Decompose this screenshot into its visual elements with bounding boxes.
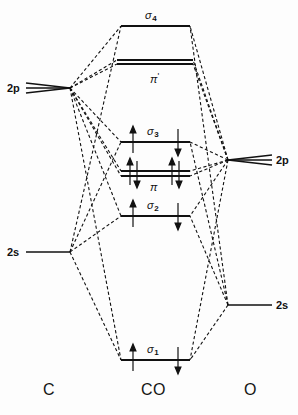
mo-label-sigma1: σ1 <box>147 344 159 357</box>
correlation-line-o2p-pistar-b <box>193 64 228 160</box>
ao-level-c-2p <box>26 83 70 93</box>
electron-arrow-down <box>134 161 140 188</box>
ao-label-c-2s: 2s <box>7 247 19 258</box>
atomic-orbital-levels <box>26 83 272 305</box>
electron-arrows <box>127 126 182 374</box>
correlation-line-o2p-sigma4 <box>190 26 228 160</box>
mo-label-sigma3: σ3 <box>147 126 159 139</box>
correlation-line-o2s-sigma3 <box>190 142 228 305</box>
correlation-line-c2p-pi-b <box>70 88 121 176</box>
column-label-oxygen: O <box>244 382 257 398</box>
mo-level-pi-star <box>117 60 193 64</box>
correlation-line-c2p-sigma4 <box>70 26 121 88</box>
mo-label-subscript: 1 <box>154 348 158 357</box>
correlation-line-c2s-sigma3 <box>70 142 121 252</box>
mo-level-pi <box>121 171 190 176</box>
ao-label-o-2p: 2p <box>276 155 288 166</box>
mo-diagram: 2p 2s 2p 2s σ4 πʹ σ3 π σ2 σ1 C CO O <box>0 0 298 415</box>
electron-arrow-up <box>130 126 136 153</box>
electron-arrow-down <box>176 161 182 188</box>
mo-label-symbol: σ <box>147 125 154 137</box>
correlation-line-c2p-sigma2 <box>70 88 121 216</box>
correlation-line-c2s-sigma1 <box>70 252 121 360</box>
ao-label-c-2p: 2p <box>7 83 19 94</box>
correlation-line-o2p-pistar-a <box>193 60 228 160</box>
mo-label-subscript: 3 <box>154 130 158 139</box>
column-label-carbon: C <box>43 382 55 398</box>
mo-label-sigma2: σ2 <box>147 200 159 213</box>
correlation-line-c2p-sigma1 <box>70 88 121 360</box>
mo-label-sigma4: σ4 <box>145 10 157 23</box>
mo-label-symbol: σ <box>147 199 154 211</box>
mo-label-symbol: σ <box>145 9 152 21</box>
mo-label-symbol: π <box>150 181 157 193</box>
electron-arrow-up <box>130 200 136 227</box>
mo-label-symbol: σ <box>147 343 154 355</box>
mo-label-subscript: 4 <box>152 14 156 23</box>
antibonding-star-icon: ʹ <box>157 71 159 81</box>
column-label-co: CO <box>141 382 166 398</box>
ao-level-o-2p <box>228 155 272 165</box>
mo-label-pi: π <box>150 182 157 193</box>
mo-label-subscript: 2 <box>154 204 158 213</box>
ao-label-o-2s: 2s <box>276 300 288 311</box>
mo-label-pi-star: πʹ <box>150 72 159 85</box>
correlation-lines <box>70 26 228 360</box>
correlation-line-c2p-sigma3 <box>70 88 121 142</box>
correlation-line-o2p-sigma3 <box>190 142 228 160</box>
correlation-line-c2s-sigma4 <box>70 26 121 252</box>
electron-arrow-up <box>130 344 136 371</box>
